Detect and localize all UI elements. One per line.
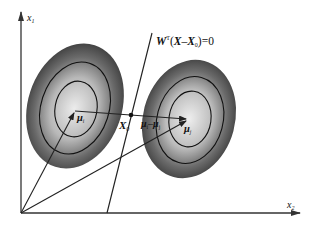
x0-point bbox=[129, 113, 134, 118]
lda-diagram: x1 x2 WT(X–X0)=0 X0 μi μj μi–μj bbox=[0, 0, 311, 226]
boundary-equation-label: WT(X–X0)=0 bbox=[156, 35, 214, 48]
cluster-j-outer-contour bbox=[129, 49, 249, 189]
cluster-j bbox=[129, 49, 249, 189]
x0-label: X0 bbox=[118, 119, 129, 132]
y-axis-label: x1 bbox=[26, 12, 34, 24]
x-axis-label: x2 bbox=[286, 199, 294, 211]
mean-difference-label: μi–μj bbox=[140, 118, 161, 130]
